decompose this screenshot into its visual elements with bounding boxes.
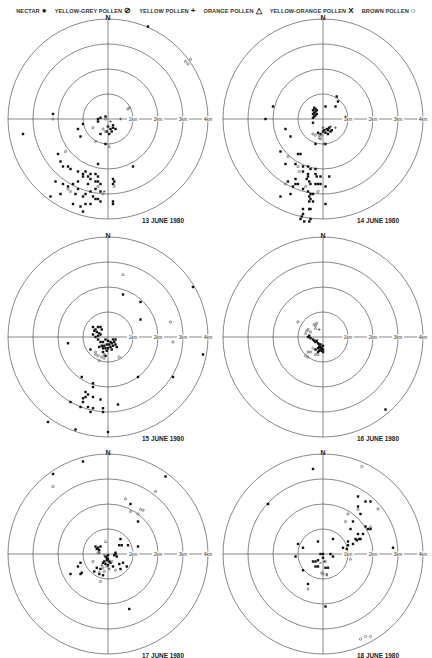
nectar-point (106, 350, 108, 352)
nectar-point (316, 175, 318, 177)
nectar-point (364, 525, 366, 527)
ring-label-4km: 4km (204, 117, 213, 122)
nectar-point (367, 528, 369, 530)
nectar-point (77, 128, 79, 130)
nectar-point (112, 565, 114, 567)
orange-pollen-point (104, 540, 107, 542)
ring-label-1km: 1km (129, 552, 138, 557)
nectar-point (128, 608, 130, 610)
brown-pollen-point (187, 63, 189, 65)
foraging-maps: N1km2km3km4km13 JUNE 1980N1km2km3km4km14… (0, 0, 432, 658)
nectar-point (297, 543, 299, 545)
nectar-point (92, 407, 94, 409)
orange-pollen-point (122, 273, 125, 275)
nectar-point (108, 343, 110, 345)
ring-label-1km: 1km (129, 117, 138, 122)
nectar-point (302, 165, 304, 167)
nectar-point (59, 160, 61, 162)
nectar-point (82, 460, 84, 462)
nectar-point (316, 109, 318, 111)
nectar-point (312, 122, 314, 124)
nectar-point (302, 170, 304, 172)
north-label: N (320, 232, 325, 239)
nectar-point (347, 544, 349, 546)
nectar-point (114, 552, 116, 554)
orange-pollen-point (314, 327, 317, 329)
nectar-point (312, 468, 314, 470)
panel-date-label: 16 JUNE 1980 (357, 435, 399, 442)
nectar-point (294, 183, 296, 185)
panel-date-label: 17 JUNE 1980 (142, 652, 184, 658)
nectar-point (264, 118, 266, 120)
nectar-point (308, 200, 310, 202)
nectar-point (87, 183, 89, 185)
yellow-orange-pollen-point (319, 562, 321, 564)
nectar-point (307, 583, 309, 585)
nectar-point (337, 100, 339, 102)
nectar-point (97, 326, 99, 328)
nectar-point (314, 168, 316, 170)
nectar-point (82, 173, 84, 175)
nectar-point (99, 133, 101, 135)
nectar-point (279, 150, 281, 152)
nectar-point (114, 128, 116, 130)
nectar-point (114, 343, 116, 345)
nectar-point (82, 210, 84, 212)
ring-label-3km: 3km (394, 552, 403, 557)
ring-label-1km: 1km (344, 552, 353, 557)
nectar-point (172, 376, 174, 378)
nectar-point (126, 565, 128, 567)
nectar-point (122, 562, 124, 564)
ring-label-2km: 2km (369, 117, 378, 122)
nectar-point (267, 503, 269, 505)
nectar-point (67, 342, 69, 344)
brown-pollen-point (359, 638, 361, 640)
nectar-point (92, 396, 94, 398)
ring-label-3km: 3km (394, 335, 403, 340)
nectar-point (104, 338, 106, 340)
ring-label-2km: 2km (154, 117, 163, 122)
nectar-point (102, 407, 104, 409)
nectar-point (294, 555, 296, 557)
nectar-point (362, 533, 364, 535)
panel-date-label: 18 JUNE 1980 (357, 652, 399, 658)
nectar-point (79, 406, 81, 408)
nectar-point (92, 195, 94, 197)
ring-label-2km: 2km (154, 335, 163, 340)
nectar-point (69, 401, 71, 403)
nectar-point (84, 396, 86, 398)
nectar-point (112, 127, 114, 129)
nectar-point (69, 168, 71, 170)
nectar-point (102, 411, 104, 413)
nectar-point (84, 193, 86, 195)
nectar-point (92, 333, 94, 335)
nectar-point (312, 560, 314, 562)
nectar-point (302, 569, 304, 571)
nectar-point (84, 391, 86, 393)
nectar-point (129, 503, 131, 505)
nectar-point (118, 544, 120, 546)
orange-pollen-point (357, 508, 360, 510)
nectar-point (113, 341, 115, 343)
nectar-point (99, 341, 101, 343)
nectar-point (313, 107, 315, 109)
nectar-point (303, 220, 305, 222)
nectar-point (99, 398, 101, 400)
nectar-point (384, 408, 386, 410)
nectar-point (137, 545, 139, 547)
nectar-point (317, 565, 319, 567)
nectar-point (82, 401, 84, 403)
yellow-pollen-point (109, 120, 112, 123)
nectar-point (359, 538, 361, 540)
ring-label-2km: 2km (369, 552, 378, 557)
nectar-point (352, 543, 354, 545)
orange-pollen-point (369, 525, 372, 527)
nectar-point (97, 335, 99, 337)
ring-label-3km: 3km (179, 117, 188, 122)
nectar-point (54, 180, 56, 182)
nectar-point (314, 565, 316, 567)
nectar-point (312, 109, 314, 111)
nectar-point (317, 559, 319, 561)
ring-label-4km: 4km (204, 552, 213, 557)
nectar-point (299, 153, 301, 155)
